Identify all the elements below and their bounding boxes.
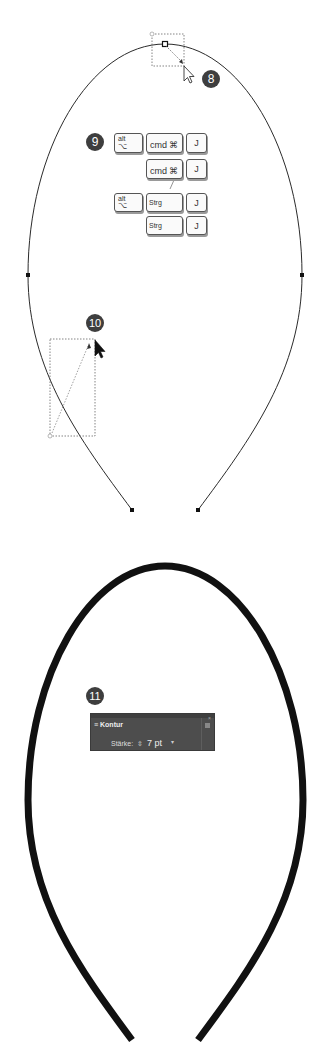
anchor-point-bottom-left[interactable] [130, 508, 134, 512]
anchor-point-top-selected[interactable] [163, 42, 168, 47]
step-badge-11: 11 [86, 687, 104, 705]
key-strg-label: Strg [149, 222, 162, 229]
key-alt-win: alt ⌥ [114, 193, 143, 212]
stroke-weight-input[interactable]: 7 pt [147, 738, 162, 748]
stroke-weight-label: Stärke: [111, 740, 133, 747]
drag-marquee-top [152, 34, 184, 66]
panel-title: Kontur [100, 721, 123, 728]
key-cmd-label: cmd [150, 166, 167, 176]
panel-tab-kontur[interactable]: ≡ Kontur [94, 721, 123, 728]
key-j-label: J [187, 164, 206, 174]
anchor-point-right[interactable] [300, 273, 304, 277]
arrow-cursor-hollow-icon [184, 66, 194, 83]
key-j: J [186, 216, 207, 235]
key-cmd: cmd ⌘ [146, 159, 183, 179]
drag-vector-top [166, 46, 182, 62]
command-symbol-icon: ⌘ [169, 140, 178, 150]
key-j-label: J [187, 221, 206, 231]
panel-divider [201, 718, 202, 750]
anchor-point-bottom-right[interactable] [196, 508, 200, 512]
step-badge-9: 9 [86, 133, 104, 151]
step-badge-8: 8 [202, 70, 220, 88]
key-cmd: cmd ⌘ [146, 133, 183, 153]
option-symbol-icon: ⌥ [118, 201, 127, 210]
step-badge-10: 10 [86, 314, 104, 332]
anchor-point-left[interactable] [26, 273, 30, 277]
key-j: J [186, 133, 207, 153]
handle-origin-top [150, 32, 154, 36]
stroke-weight-dropdown-icon[interactable]: ▾ [171, 738, 174, 745]
key-alt-label: alt [118, 135, 125, 142]
key-j: J [186, 159, 207, 179]
key-cmd-label: cmd [150, 140, 167, 150]
open-path-thin[interactable] [28, 44, 302, 510]
stroke-weight-stepper-icon[interactable]: ⇳ [137, 740, 143, 747]
key-strg: Strg [146, 193, 183, 212]
panel-close-icon[interactable]: × [208, 715, 211, 721]
key-strg: Strg [146, 216, 183, 235]
key-strg-label: Strg [149, 199, 162, 206]
command-symbol-icon: ⌘ [169, 166, 178, 176]
panel-menu-icon[interactable] [205, 723, 210, 728]
panel-title-bar[interactable] [91, 714, 214, 718]
key-j: J [186, 193, 207, 212]
key-j-label: J [187, 138, 206, 148]
shortcut-separator-line [170, 180, 174, 189]
arrow-cursor-filled-icon [95, 340, 105, 358]
option-symbol-icon: ⌥ [118, 142, 127, 151]
handle-origin-bottom [48, 434, 52, 438]
stroke-panel: × ≡ Kontur Stärke: ⇳ 7 pt ▾ [90, 713, 215, 751]
key-alt-mac: alt ⌥ [114, 133, 143, 153]
drag-arrowhead-bottom [87, 343, 91, 349]
key-j-label: J [187, 198, 206, 208]
open-path-thick[interactable] [28, 566, 303, 1040]
stroke-weight-row: Stärke: ⇳ 7 pt [111, 738, 162, 748]
